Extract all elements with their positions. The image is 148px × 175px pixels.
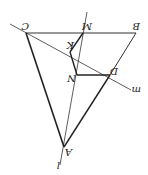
label-n: N: [66, 73, 77, 84]
label-k: K: [66, 40, 75, 51]
segment-kn: [70, 52, 77, 75]
geometry-diagram: C M B K N D A l m: [0, 0, 148, 175]
label-b: B: [133, 21, 141, 32]
label-c: C: [21, 21, 29, 32]
label-m: M: [81, 21, 93, 32]
label-a: A: [65, 147, 73, 158]
label-line-l: l: [57, 160, 60, 171]
segment-da: [64, 75, 110, 147]
line-l: [60, 12, 87, 165]
label-d: D: [110, 66, 119, 77]
label-line-m: m: [132, 85, 141, 96]
